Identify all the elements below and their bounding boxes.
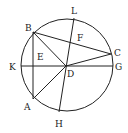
label-d: D (67, 69, 74, 79)
label-k: K (9, 62, 16, 72)
label-h: H (55, 119, 63, 129)
segment-dc (66, 54, 111, 66)
label-l: L (71, 6, 77, 16)
label-a: A (23, 102, 31, 112)
label-b: B (25, 23, 32, 33)
segment-lh (59, 18, 74, 112)
circle-geometry-diagram: A B C D E F G H K L (0, 0, 128, 133)
label-f: F (77, 33, 83, 43)
segment-bc (33, 32, 111, 54)
label-g: G (115, 62, 122, 72)
segment-ad (33, 66, 66, 99)
label-e: E (37, 52, 44, 62)
label-c: C (114, 48, 121, 58)
